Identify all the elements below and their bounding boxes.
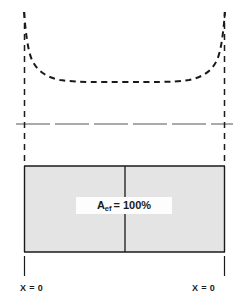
area-symbol: A [97,199,105,211]
area-subscript: ef [105,204,112,213]
area-value: 100% [123,199,151,211]
diagram-figure: Aef=100% X = 0 X = 0 [0,0,247,302]
effective-area-label: Aef=100% [76,197,172,214]
area-equals: = [112,199,123,211]
x-axis-label-left: X = 0 [20,283,43,293]
diagram-canvas [0,0,247,302]
x-axis-label-right: X = 0 [192,283,215,293]
profile-curve [24,12,225,82]
